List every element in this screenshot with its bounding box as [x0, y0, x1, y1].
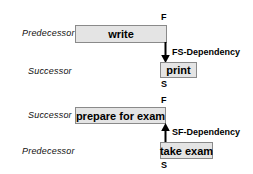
role-label-predecessor-fs: Predecessor	[22, 28, 75, 38]
task-box-write[interactable]: write	[75, 25, 167, 43]
start-marker-sf: S	[161, 161, 167, 170]
task-box-print[interactable]: print	[160, 62, 197, 78]
role-label-successor-fs: Successor	[28, 66, 72, 76]
finish-marker-sf: F	[161, 96, 167, 105]
task-box-prepare-for-exam[interactable]: prepare for exam	[75, 107, 166, 124]
role-label-successor-sf: Successor	[28, 110, 72, 120]
dependency-label-sf: SF-Dependency	[172, 127, 240, 137]
start-marker-fs: S	[161, 80, 167, 89]
task-box-take-exam[interactable]: take exam	[160, 142, 213, 159]
finish-marker-fs: F	[161, 13, 167, 22]
diagram-canvas: F Predecessor write Successor FS-Depende…	[0, 0, 253, 174]
role-label-predecessor-sf: Predecessor	[22, 146, 75, 156]
dependency-label-fs: FS-Dependency	[172, 47, 240, 57]
